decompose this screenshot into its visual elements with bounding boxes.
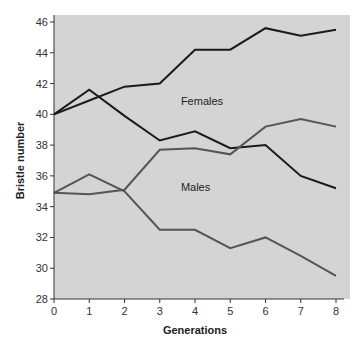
y-tick-label: 34 — [36, 201, 48, 213]
y-tick-label: 36 — [36, 170, 48, 182]
x-tick-label: 4 — [192, 305, 198, 317]
x-tick-label: 2 — [121, 305, 127, 317]
y-tick-label: 42 — [36, 78, 48, 90]
y-tick-label: 44 — [36, 47, 48, 59]
y-tick-label: 30 — [36, 262, 48, 274]
x-tick-label: 3 — [157, 305, 163, 317]
y-tick-label: 28 — [36, 293, 48, 305]
x-tick-label: 1 — [86, 305, 92, 317]
x-tick-label: 5 — [227, 305, 233, 317]
y-tick-label: 40 — [36, 108, 48, 120]
plot-area — [54, 15, 350, 299]
y-tick-label: 46 — [36, 16, 48, 28]
x-axis-title: Generations — [163, 324, 227, 336]
annotation-males: Males — [181, 181, 211, 193]
y-tick-label: 32 — [36, 231, 48, 243]
x-tick-label: 0 — [51, 305, 57, 317]
x-tick-label: 7 — [298, 305, 304, 317]
y-axis-title: Bristle number — [14, 121, 26, 199]
annotation-females: Females — [181, 95, 224, 107]
line-chart: 28303234363840424446012345678 FemalesMal… — [0, 0, 358, 349]
y-tick-label: 38 — [36, 139, 48, 151]
x-tick-label: 6 — [262, 305, 268, 317]
x-tick-label: 8 — [333, 305, 339, 317]
